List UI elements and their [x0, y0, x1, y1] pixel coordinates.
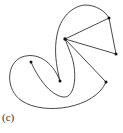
segment-d-e [109, 18, 116, 54]
point-c [63, 37, 66, 40]
point-a [30, 61, 33, 64]
figure-label: (c) [2, 111, 14, 123]
point-e [115, 53, 118, 56]
point-d [108, 17, 111, 20]
segment-c-d [65, 18, 109, 39]
point-f [105, 81, 108, 84]
top-arc [56, 5, 109, 81]
spline-diagram [0, 0, 123, 133]
point-b [59, 80, 62, 83]
outer-curve [10, 56, 106, 109]
